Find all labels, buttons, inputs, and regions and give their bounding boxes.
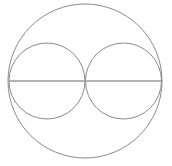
geometric-figure-canvas	[0, 0, 172, 166]
